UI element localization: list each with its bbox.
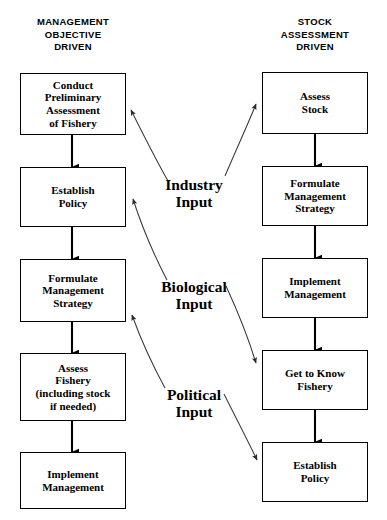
node-implement-management-right[interactable]: Implement Management <box>262 258 368 318</box>
node-assess-fishery[interactable]: Assess Fishery (including stock if neede… <box>20 353 126 421</box>
node-get-to-know-fishery[interactable]: Get to Know Fishery <box>262 350 368 410</box>
process-flow-diagram: MANAGEMENT OBJECTIVE DRIVEN STOCK ASSESS… <box>0 0 387 520</box>
connector-industry-to-r1 <box>225 104 256 176</box>
column-heading-left: MANAGEMENT OBJECTIVE DRIVEN <box>18 16 128 54</box>
column-heading-right: STOCK ASSESSMENT DRIVEN <box>258 16 372 54</box>
node-formulate-management-strategy-left[interactable]: Formulate Management Strategy <box>20 259 126 322</box>
connector-political-to-l4 <box>132 315 165 388</box>
center-label-industry-input: Industry Input <box>140 176 248 210</box>
node-conduct-preliminary-assessment[interactable]: Conduct Preliminary Assessment of Fisher… <box>20 73 126 135</box>
node-formulate-management-strategy-right[interactable]: Formulate Management Strategy <box>262 166 368 226</box>
connector-biological-to-l3 <box>133 199 167 280</box>
connector-industry-to-l1 <box>131 110 168 181</box>
center-label-biological-input: Biological Input <box>140 278 248 312</box>
node-assess-stock[interactable]: Assess Stock <box>262 72 368 134</box>
node-establish-policy-left[interactable]: Establish Policy <box>20 167 126 227</box>
node-implement-management-left[interactable]: Implement Management <box>20 452 126 509</box>
node-establish-policy-right[interactable]: Establish Policy <box>262 442 368 502</box>
center-label-political-input: Political Input <box>140 386 248 420</box>
